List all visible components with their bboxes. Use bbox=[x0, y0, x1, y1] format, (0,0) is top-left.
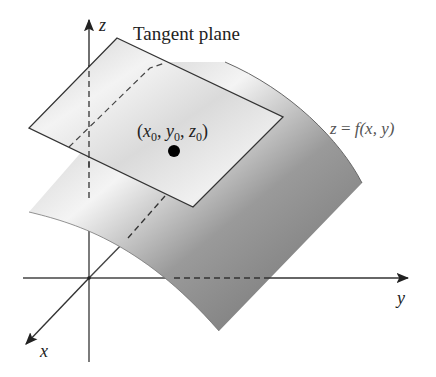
tangency-point bbox=[168, 145, 180, 157]
eq-args: (x, y) bbox=[359, 119, 394, 138]
coord-y: y bbox=[166, 121, 174, 141]
y-axis-label: y bbox=[397, 289, 405, 307]
paren-close: ) bbox=[202, 121, 208, 141]
x-axis bbox=[26, 278, 89, 344]
tangent-plane-diagram: Tangent plane z y x z = f(x, y) (x0, y0,… bbox=[0, 0, 436, 377]
z-axis-label: z bbox=[99, 16, 106, 34]
tangent-plane-label: Tangent plane bbox=[133, 24, 240, 43]
sep-2: , bbox=[180, 121, 189, 141]
origin-dot bbox=[87, 276, 91, 280]
surface-equation-label: z = f(x, y) bbox=[330, 120, 394, 137]
diagram-canvas bbox=[0, 0, 436, 377]
coord-z: z bbox=[189, 121, 196, 141]
eq-lhs: z bbox=[330, 119, 337, 138]
sep-1: , bbox=[157, 121, 166, 141]
x-axis-label: x bbox=[40, 342, 48, 360]
coord-x: x bbox=[143, 121, 151, 141]
point-label: (x0, y0, z0) bbox=[137, 122, 208, 140]
eq-sign: = bbox=[337, 119, 355, 138]
